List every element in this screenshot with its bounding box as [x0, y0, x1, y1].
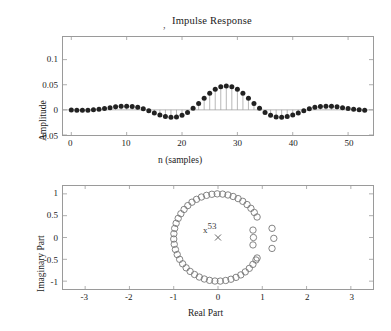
impulse-response-xtick-label: 10 — [122, 138, 131, 148]
pole-zero-xtick-label: 1 — [260, 292, 265, 302]
pole-zero-xtick-label: 2 — [305, 292, 310, 302]
impulse-response-xtick-label: 20 — [177, 138, 186, 148]
pole-zero-xlabel: Real Part — [188, 308, 223, 318]
pole-zero-ytick-label: 0 — [22, 233, 58, 243]
cropped-header-text — [0, 0, 391, 7]
impulse-response-xlabel: n (samples) — [158, 155, 202, 165]
impulse-response-axes — [62, 36, 374, 136]
impulse-response-ytick-label: 0 — [22, 105, 58, 115]
pole-zero-xtick-label: -2 — [125, 292, 133, 302]
pole-zero-xtick-label: -3 — [81, 292, 89, 302]
impulse-response-ytick-label: -0.05 — [22, 131, 58, 141]
pole-zero-xtick-label: -1 — [170, 292, 178, 302]
impulse-response-title: Impulse Response — [172, 15, 252, 26]
pole-zero-ytick-label: 1 — [22, 188, 58, 198]
impulse-response-ytick-label: 0.1 — [22, 54, 58, 64]
pole-zero-ytick-label: -0.5 — [22, 255, 58, 265]
pole-multiplicity-annotation: x53 — [203, 221, 217, 235]
pole-zero-plot-area — [63, 186, 373, 289]
impulse-response-plot-area — [63, 37, 373, 135]
impulse-response-xtick-label: 50 — [344, 138, 353, 148]
pole-zero-ytick-label: 0.5 — [22, 210, 58, 220]
impulse-response-xtick-label: 0 — [68, 138, 73, 148]
figure-canvas: , Impulse Response Amplitude n (samples)… — [0, 0, 391, 331]
pole-zero-xtick-label: 3 — [349, 292, 354, 302]
title-prefix-mark: , — [163, 19, 166, 30]
impulse-response-xtick-label: 40 — [289, 138, 298, 148]
impulse-response-ytick-label: 0.05 — [22, 80, 58, 90]
pole-zero-xtick-label: 0 — [216, 292, 221, 302]
pole-zero-ytick-label: -1 — [22, 277, 58, 287]
pole-zero-axes — [62, 185, 374, 290]
pole-multiplicity-value: 53 — [208, 221, 217, 231]
impulse-response-xtick-label: 30 — [233, 138, 242, 148]
